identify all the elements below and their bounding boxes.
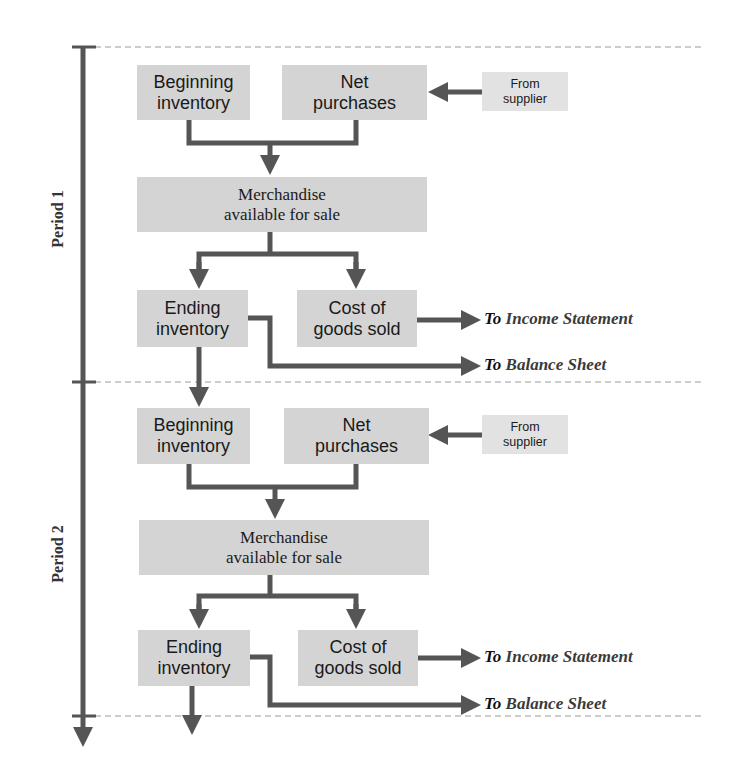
p1-to-income-statement: To Income Statement: [484, 309, 633, 329]
p1-ending-inventory-box: Endinginventory: [137, 290, 248, 347]
p2-cost-of-goods-sold-box: Cost ofgoods sold: [298, 630, 418, 686]
p2-to-balance-sheet: To Balance Sheet: [484, 694, 606, 714]
period-2-label: Period 2: [49, 514, 67, 594]
p1-beginning-inventory-box: Beginninginventory: [137, 65, 250, 120]
p2-to-income-statement: To Income Statement: [484, 647, 633, 667]
inventory-flow-diagram: Period 1 Period 2 Beginninginventory Net…: [0, 0, 729, 778]
p2-from-supplier-box: Fromsupplier: [482, 415, 568, 454]
p2-beginning-inventory-box: Beginninginventory: [137, 408, 250, 464]
p2-ending-inventory-box: Endinginventory: [138, 630, 250, 686]
p1-from-supplier-box: Fromsupplier: [482, 72, 568, 111]
p1-to-balance-sheet: To Balance Sheet: [484, 355, 606, 375]
p2-merchandise-available-box: Merchandiseavailable for sale: [139, 520, 429, 575]
p1-merchandise-available-box: Merchandiseavailable for sale: [137, 177, 427, 232]
p1-net-purchases-box: Netpurchases: [282, 65, 427, 120]
period-1-label: Period 1: [49, 179, 67, 259]
p2-net-purchases-box: Netpurchases: [284, 408, 429, 464]
p1-cost-of-goods-sold-box: Cost ofgoods sold: [297, 290, 417, 347]
